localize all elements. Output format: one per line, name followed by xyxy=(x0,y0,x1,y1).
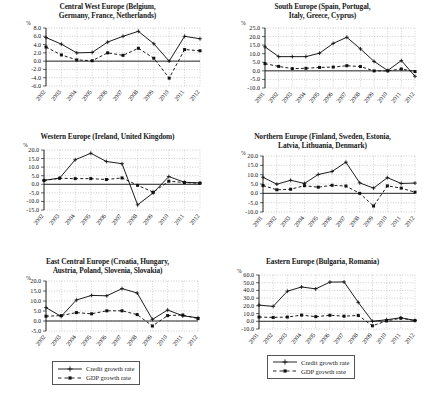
legend-label-gdp: GDP growth rate xyxy=(301,367,346,376)
x-tick-label: 2002 xyxy=(267,91,279,104)
y-axis-unit-label: % xyxy=(241,150,246,156)
y-tick-label: 10.0 xyxy=(249,51,260,57)
y-tick-label: 0.0 xyxy=(252,68,260,74)
gdp-data-point xyxy=(345,64,348,67)
legend-item-credit: Credit growth rate xyxy=(272,358,349,367)
x-tick-label: 2002 xyxy=(35,89,47,102)
gdp-data-point xyxy=(89,177,92,180)
x-tick-label: 2010 xyxy=(157,213,169,226)
legend-label-credit: Credit growth rate xyxy=(301,358,349,367)
y-tick-label: 5.0 xyxy=(31,172,39,178)
credit-data-point xyxy=(105,294,109,298)
credit-data-point xyxy=(261,176,265,180)
x-tick-label: 2009 xyxy=(142,213,154,226)
gdp-data-point xyxy=(183,181,186,184)
chart-panel-western-europe: Western Europe (Ireland, United Kingdom)… xyxy=(0,130,215,255)
y-tick-label: -15.0 xyxy=(26,207,39,213)
gdp-data-point xyxy=(314,315,317,318)
legend-item-gdp: GDP growth rate xyxy=(57,373,134,382)
y-tick-label: -5.0 xyxy=(29,189,39,195)
gdp-data-point xyxy=(75,311,78,314)
gdp-data-point xyxy=(414,70,417,73)
y-tick-label: 40.0 xyxy=(243,287,254,293)
x-tick-label: 2005 xyxy=(79,213,91,226)
chart-svg-eastern-europe: 60.050.040.030.020.010.00.0-10.020012002… xyxy=(215,267,430,367)
gdp-data-point xyxy=(373,70,376,73)
credit-data-point xyxy=(60,42,64,46)
credit-data-point xyxy=(300,285,304,289)
x-tick-label: 2006 xyxy=(321,215,333,228)
chart-title-central-west-europe: Central West Europe (Belgium, Germany, F… xyxy=(0,0,215,20)
y-tick-label: 0.0 xyxy=(246,318,254,324)
gdp-data-point xyxy=(45,46,48,49)
y-tick-label: 20.0 xyxy=(247,153,258,159)
legend-label-gdp: GDP growth rate xyxy=(86,373,131,382)
chart-title-northern-europe: Northern Europe (Finland, Sweden, Estoni… xyxy=(215,130,430,150)
credit-data-point xyxy=(44,306,48,310)
gdp-data-point xyxy=(291,67,294,70)
x-tick-label: 2010 xyxy=(376,215,388,228)
gdp-line-icon xyxy=(57,374,83,382)
gdp-line-icon xyxy=(272,367,298,375)
gdp-data-point xyxy=(168,77,171,80)
y-tick-label: 10.0 xyxy=(28,164,39,170)
credit-data-point xyxy=(304,55,308,59)
gdp-data-point xyxy=(151,325,154,328)
y-axis-unit-label: % xyxy=(26,275,31,281)
y-tick-label: -6.0 xyxy=(31,83,41,89)
x-tick-label: 2003 xyxy=(48,213,60,226)
credit-data-point xyxy=(120,287,124,291)
title-line: Austria, Poland, Slovenia, Slovakia) xyxy=(6,267,209,276)
plot-area-central-west-europe: % 8.06.04.02.00.0-2.0-4.0-6.020022003200… xyxy=(0,20,215,130)
x-tick-label: 2004 xyxy=(293,215,305,228)
legend-item-credit: Credit growth rate xyxy=(57,364,134,373)
gdp-data-point xyxy=(45,315,48,318)
x-tick-label: 2004 xyxy=(290,332,302,345)
x-tick-label: 2001 xyxy=(252,215,264,228)
x-tick-label: 2012 xyxy=(189,89,201,102)
gdp-data-point xyxy=(258,315,261,318)
x-tick-label: 2012 xyxy=(404,215,416,228)
x-tick-label: 2007 xyxy=(111,213,123,226)
x-tick-label: 2003 xyxy=(50,89,62,102)
gdp-growth-line xyxy=(263,185,415,206)
x-tick-label: 2009 xyxy=(362,215,374,228)
x-tick-label: 2005 xyxy=(304,332,316,345)
credit-line-icon xyxy=(272,358,298,366)
legend-item-gdp: GDP growth rate xyxy=(272,367,349,376)
credit-data-point xyxy=(198,37,202,41)
x-tick-label: 2008 xyxy=(127,89,139,102)
credit-data-point xyxy=(257,303,261,307)
x-tick-label: 2011 xyxy=(390,332,402,345)
y-tick-label: 8.0 xyxy=(33,25,41,31)
credit-data-point xyxy=(90,294,94,298)
chart-svg-western-europe: 20.015.010.05.00.0-5.0-10.0-15.020022003… xyxy=(0,142,215,254)
chart-svg-northern-europe: 20.015.010.05.00.0-5.0-10.02001200220032… xyxy=(215,150,430,254)
x-tick-label: 2008 xyxy=(126,334,138,347)
gdp-data-point xyxy=(357,314,360,317)
gdp-data-point xyxy=(121,176,124,179)
plot-area-east-central-europe: % 20.015.010.05.00.0-5.02002200320042005… xyxy=(0,275,215,367)
x-tick-label: 2007 xyxy=(112,89,124,102)
x-tick-label: 2009 xyxy=(142,89,154,102)
y-tick-label: 6.0 xyxy=(33,33,41,39)
gdp-data-point xyxy=(372,205,375,208)
gdp-data-point xyxy=(105,309,108,312)
x-tick-label: 2011 xyxy=(390,91,402,104)
chart-title-eastern-europe: Eastern Europe (Bulgaria, Romania) xyxy=(215,255,430,267)
x-tick-label: 2002 xyxy=(265,215,277,228)
title-line: Italy, Greece, Cyprus) xyxy=(221,12,424,21)
gdp-growth-line xyxy=(44,178,200,192)
gdp-data-point xyxy=(359,65,362,68)
x-tick-label: 2004 xyxy=(64,213,76,226)
x-tick-label: 2009 xyxy=(363,91,375,104)
x-tick-label: 2010 xyxy=(376,91,388,104)
y-tick-label: 15.0 xyxy=(30,288,41,294)
y-tick-label: -10.0 xyxy=(26,198,39,204)
chart-title-east-central-europe: East Central Europe (Croatia, Hungary, A… xyxy=(0,255,215,275)
gdp-data-point xyxy=(317,186,320,189)
y-tick-label: 0.0 xyxy=(250,191,258,197)
gdp-data-point xyxy=(344,185,347,188)
chart-panel-central-west-europe: Central West Europe (Belgium, Germany, F… xyxy=(0,0,215,130)
gdp-data-point xyxy=(277,65,280,68)
